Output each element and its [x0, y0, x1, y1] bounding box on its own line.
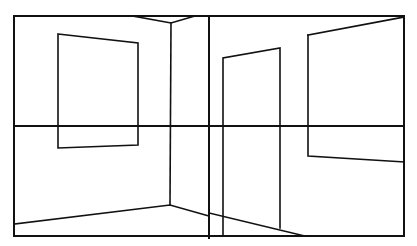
ceiling-corner [133, 16, 195, 23]
perspective-diagram: Two-point room perspective line drawing [0, 0, 417, 246]
door [223, 48, 280, 235]
right-window [308, 35, 404, 162]
left-window [58, 34, 138, 148]
room-drawing [0, 0, 417, 246]
floor-lines [14, 205, 209, 224]
right-ceiling-line [308, 17, 404, 35]
wall-corner [170, 23, 171, 205]
